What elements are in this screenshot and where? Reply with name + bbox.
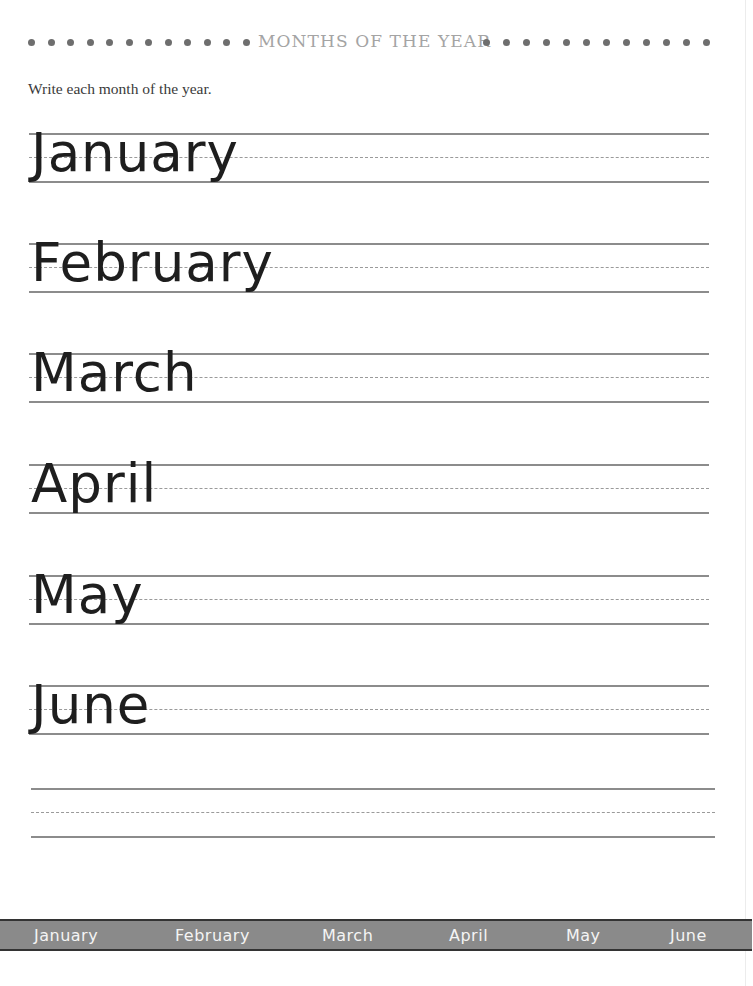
dot-icon: [126, 39, 133, 46]
dot-icon: [165, 39, 172, 46]
dot-icon: [145, 39, 152, 46]
strip-month-february: February: [175, 926, 250, 945]
practice-row-blank[interactable]: [31, 788, 715, 836]
decorative-dots-left: [28, 28, 250, 56]
strip-month-january: January: [34, 926, 98, 945]
dot-icon: [243, 39, 250, 46]
dot-icon: [28, 39, 35, 46]
dot-icon: [703, 39, 710, 46]
dot-icon: [87, 39, 94, 46]
strip-month-march: March: [322, 926, 373, 945]
page-title: MONTHS OF THE YEAR: [258, 31, 491, 51]
dot-icon: [543, 39, 550, 46]
dot-icon: [663, 39, 670, 46]
practice-row-may[interactable]: May: [29, 575, 709, 623]
dot-icon: [523, 39, 530, 46]
strip-month-june: June: [670, 926, 707, 945]
dot-icon: [683, 39, 690, 46]
dot-icon: [48, 39, 55, 46]
strip-month-april: April: [449, 926, 488, 945]
model-word: April: [31, 454, 157, 514]
midline-dashed: [31, 812, 715, 813]
dot-icon: [623, 39, 630, 46]
dot-icon: [67, 39, 74, 46]
practice-row-march[interactable]: March: [29, 353, 709, 401]
dot-icon: [503, 39, 510, 46]
practice-row-january[interactable]: January: [29, 133, 709, 181]
model-word: March: [31, 343, 198, 403]
dot-icon: [184, 39, 191, 46]
dot-icon: [583, 39, 590, 46]
dot-icon: [483, 39, 490, 46]
dot-icon: [223, 39, 230, 46]
practice-row-april[interactable]: April: [29, 464, 709, 512]
months-reference-strip: January February March April May June: [0, 919, 752, 951]
dot-icon: [643, 39, 650, 46]
baseline: [31, 836, 715, 838]
dot-icon: [603, 39, 610, 46]
practice-row-june[interactable]: June: [29, 685, 709, 733]
dot-icon: [106, 39, 113, 46]
strip-month-may: May: [566, 926, 601, 945]
practice-row-february[interactable]: February: [29, 243, 709, 291]
instruction-text: Write each month of the year.: [28, 80, 212, 98]
model-word: January: [31, 123, 239, 183]
page-edge: [745, 0, 746, 986]
page-header: MONTHS OF THE YEAR: [26, 28, 716, 56]
model-word: May: [31, 565, 144, 625]
model-word: June: [31, 675, 150, 735]
decorative-dots-right: [483, 28, 710, 56]
model-word: February: [31, 233, 274, 293]
dot-icon: [204, 39, 211, 46]
dot-icon: [563, 39, 570, 46]
top-line: [31, 788, 715, 790]
